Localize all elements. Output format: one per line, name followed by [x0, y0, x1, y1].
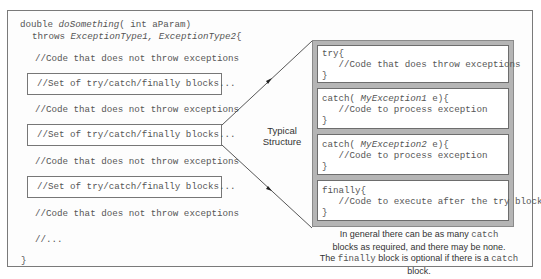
block-body: //Code to process exception	[322, 104, 487, 115]
block-close: }	[322, 161, 328, 172]
catch-block-2: catch( MyException2 e){ //Code to proces…	[317, 134, 509, 175]
upper-connector	[222, 41, 312, 125]
finally-block: finally{ //Code to execute after the try…	[317, 180, 509, 221]
label-line: Typical	[252, 125, 312, 136]
note-line: blocks as required, and there may be non…	[312, 242, 526, 254]
block-close: }	[322, 207, 328, 218]
block-close: }	[322, 70, 328, 81]
explanatory-note: In general there can be as many catch bl…	[312, 229, 526, 277]
code-keyword: catch	[471, 230, 498, 240]
block-body: //Code to process exception	[322, 150, 487, 161]
lower-connector	[222, 145, 312, 228]
block-body: //Code to execute after the try block	[322, 196, 541, 207]
block-body: //Code that does throw exceptions	[322, 59, 520, 70]
catch-block-1: catch( MyException1 e){ //Code to proces…	[317, 88, 509, 129]
exception-name: MyException2	[361, 139, 427, 150]
try-block: try{ //Code that does throw exceptions }	[317, 45, 509, 83]
structure-panel: try{ //Code that does throw exceptions }…	[312, 40, 514, 227]
block-close: }	[322, 115, 328, 126]
exception-name: MyException1	[361, 93, 427, 104]
code-keyword: finally	[338, 254, 376, 264]
label-line: Structure	[252, 136, 312, 147]
code-keyword: catch	[491, 254, 518, 264]
typical-structure-label: Typical Structure	[252, 125, 312, 147]
